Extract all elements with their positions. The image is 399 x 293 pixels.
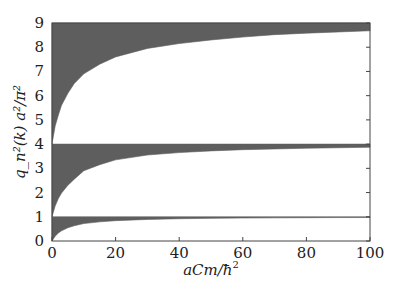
x-tick-label: 100 — [356, 244, 385, 262]
y-tick-label: 2 — [34, 184, 44, 202]
x-tick-label: 0 — [47, 244, 57, 262]
y-tick-label: 8 — [34, 38, 44, 56]
y-axis-label: q_n²(k) a²/π² — [11, 85, 29, 179]
y-tick-label: 4 — [34, 135, 44, 153]
y-tick-label: 9 — [34, 14, 44, 32]
x-tick-label: 20 — [106, 244, 125, 262]
band-1-area — [52, 217, 370, 241]
band-3-area — [52, 23, 370, 144]
x-axis-label: aCm/ħ2 — [183, 259, 239, 279]
y-tick-label: 6 — [34, 87, 44, 105]
y-tick-label: 3 — [34, 159, 44, 177]
x-tick-label: 80 — [297, 244, 316, 262]
band-structure-chart: 020406080100 0123456789 aCm/ħ2 q_n²(k) a… — [0, 0, 399, 293]
y-tick-label: 1 — [34, 208, 44, 226]
y-tick-label: 7 — [34, 62, 44, 80]
y-tick-label: 0 — [34, 232, 44, 250]
x-tick-label: 40 — [170, 244, 189, 262]
y-tick-label: 5 — [34, 111, 44, 129]
allowed-bands — [52, 23, 370, 241]
band-2-area — [52, 144, 370, 217]
